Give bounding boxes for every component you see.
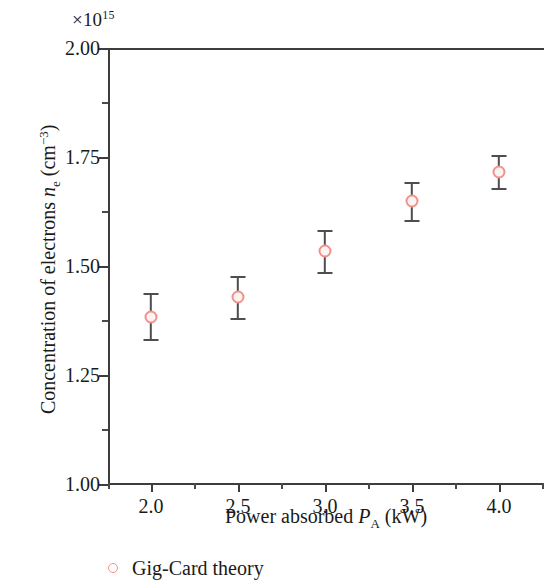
plot-area: 2.00 1.75 1.50 1.25 1.00 2.0 2.5 3.0 (108, 48, 544, 485)
y-minor-tick (102, 102, 108, 104)
x-tick-mark-3.0 (325, 483, 327, 492)
error-bar-cap-upper (144, 293, 159, 295)
x-tick-mark-2.0 (151, 483, 153, 492)
x-axis-title-prefix: Power absorbed (225, 505, 358, 527)
y-axis-title-unit-exponent: −3 (36, 131, 51, 145)
y-minor-tick (102, 211, 108, 213)
y-tick-mark (99, 484, 108, 486)
data-point[interactable] (232, 291, 245, 304)
y-axis-title-unit-open: (cm (37, 145, 59, 181)
x-tick-mark-4.0 (499, 483, 501, 492)
error-bar-cap-lower (231, 318, 246, 320)
y-axis-title-subscript: e (48, 181, 63, 187)
y-tick-mark (99, 266, 108, 268)
data-point[interactable] (319, 245, 332, 258)
y-tick-label: 1.25 (65, 365, 100, 385)
error-bar-cap-upper (231, 276, 246, 278)
x-minor-tick (455, 483, 457, 489)
x-tick-mark-2.5 (238, 483, 240, 492)
y-tick-label: 1.75 (65, 147, 100, 167)
y-tick-label: 1.50 (65, 256, 100, 276)
x-axis-title-suffix: (kW) (380, 505, 427, 527)
error-bar-cap-lower (492, 188, 507, 190)
y-axis-exponent-times: ×10 (72, 9, 102, 30)
y-axis-exponent-label: ×1015 (72, 8, 115, 31)
scatter-chart-figure: ×1015 2.00 1.75 1.50 1.25 1.00 (0, 0, 544, 585)
legend-entry-gig-card-theory[interactable]: Gig-Card theory (108, 558, 264, 578)
y-axis-title-prefix: Concentration of electrons (37, 197, 59, 414)
axis-line-top (108, 48, 544, 50)
legend-entry-label: Gig-Card theory (132, 558, 264, 578)
y-axis-title-symbol: n (37, 187, 59, 197)
y-axis-exponent-power: 15 (102, 8, 114, 22)
y-tick-label: 2.00 (65, 38, 100, 58)
x-axis-title-subscript: A (370, 516, 379, 531)
y-tick-label: 1.00 (65, 474, 100, 494)
data-point[interactable] (493, 166, 506, 179)
error-bar-cap-lower (318, 272, 333, 274)
x-minor-tick (542, 483, 544, 489)
open-circle-icon (108, 563, 118, 573)
data-point[interactable] (145, 311, 158, 324)
error-bar-cap-lower (405, 220, 420, 222)
x-minor-tick (368, 483, 370, 489)
x-axis-title: Power absorbed PA (kW) (108, 505, 544, 532)
y-tick-mark (99, 48, 108, 50)
x-minor-tick (194, 483, 196, 489)
axis-line-left (108, 48, 110, 485)
error-bar-cap-upper (492, 155, 507, 157)
data-point[interactable] (406, 195, 419, 208)
y-tick-mark (99, 157, 108, 159)
x-minor-tick (108, 483, 110, 489)
error-bar-cap-upper (405, 182, 420, 184)
y-axis-title: Concentration of electrons ne (cm−3) (36, 49, 65, 489)
legend: Gig-Card theory (108, 558, 264, 578)
y-minor-tick (102, 320, 108, 322)
x-minor-tick (281, 483, 283, 489)
x-tick-mark-3.5 (412, 483, 414, 492)
y-axis-title-unit-close: ) (37, 125, 59, 132)
x-axis-title-symbol: P (358, 505, 370, 527)
error-bar-cap-upper (318, 230, 333, 232)
y-minor-tick (102, 429, 108, 431)
y-tick-mark (99, 375, 108, 377)
error-bar-cap-lower (144, 339, 159, 341)
